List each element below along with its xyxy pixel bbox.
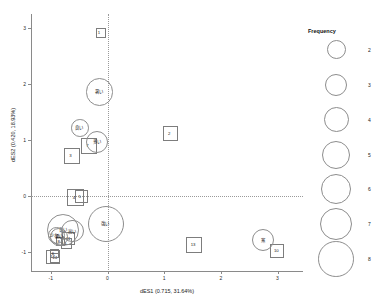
frequency-legend: Frequency 2345678: [306, 28, 387, 276]
x-tick-label: 1: [155, 275, 173, 281]
legend-circle: [327, 40, 346, 59]
legend-circle: [322, 141, 350, 169]
term-circle-label: 強い: [101, 221, 109, 226]
y-axis-title: dES2 (0.420, 18.93%): [10, 70, 16, 200]
x-tick-mark: [108, 271, 109, 274]
x-tick-label: 3: [269, 275, 287, 281]
plot-area: -10123 -10123 1237451198121461310暑い良い多い強…: [31, 14, 303, 272]
category-square-marker: [75, 190, 88, 203]
legend-value-label: 8: [368, 256, 371, 262]
y-axis-line: [31, 14, 32, 272]
legend-value-label: 5: [368, 152, 371, 158]
category-square-marker: [163, 126, 178, 141]
term-circle-label: 高い: [68, 229, 76, 234]
legend-value-label: 2: [368, 47, 371, 53]
legend-value-label: 6: [368, 186, 371, 192]
term-circle-label: 少ない: [50, 233, 62, 238]
legend-circle: [321, 174, 351, 204]
x-tick-mark: [278, 271, 279, 274]
category-square-label: 10: [274, 248, 279, 253]
term-circle-label: 多い: [93, 139, 101, 144]
category-square-label: 3: [69, 153, 71, 158]
y-tick-mark: [28, 84, 31, 85]
legend-title: Frequency: [308, 28, 336, 34]
category-square-label: 5: [78, 194, 80, 199]
x-tick-mark: [221, 271, 222, 274]
term-circle-label: 良い: [75, 125, 83, 130]
legend-value-label: 7: [368, 221, 371, 227]
legend-circle: [324, 107, 349, 132]
x-tick-label: -1: [42, 275, 60, 281]
x-tick-label: 2: [212, 275, 230, 281]
legend-value-label: 4: [368, 117, 371, 123]
term-circle-label: 寒: [261, 238, 265, 243]
category-square-label: 1: [98, 30, 100, 35]
x-tick-mark: [51, 271, 52, 274]
y-tick-label: -1: [10, 249, 26, 255]
category-square-label: 13: [191, 242, 196, 247]
category-square-label: 2: [168, 131, 170, 136]
y-tick-mark: [28, 196, 31, 197]
chart-root: -10123 -10123 1237451198121461310暑い良い多い強…: [0, 0, 387, 308]
x-axis-title: dES1 (0.715, 31.64%): [31, 288, 303, 294]
legend-circle: [318, 241, 354, 277]
category-square-label: 6: [52, 251, 54, 256]
y-tick-mark: [28, 28, 31, 29]
y-tick-mark: [28, 140, 31, 141]
term-circle-label: 暑い: [95, 89, 103, 94]
y-tick-label: 3: [10, 25, 26, 31]
category-square-marker: [64, 148, 80, 164]
x-tick-label: 0: [99, 275, 117, 281]
legend-circle: [320, 208, 353, 241]
x-axis-line: [31, 271, 303, 272]
x-tick-mark: [164, 271, 165, 274]
legend-circle: [325, 74, 347, 96]
legend-value-label: 3: [368, 82, 371, 88]
y-tick-mark: [28, 252, 31, 253]
